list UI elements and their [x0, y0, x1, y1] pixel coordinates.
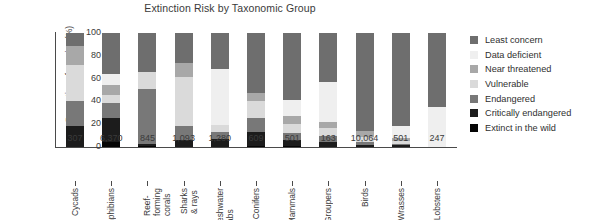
- bar-segment[interactable]: [102, 74, 120, 85]
- bar-segment[interactable]: [102, 33, 120, 74]
- legend-item-label: Vulnerable: [485, 79, 529, 89]
- bar-segment[interactable]: [138, 72, 156, 89]
- legend-item[interactable]: Data deficient: [470, 48, 571, 63]
- chart-legend: Least concernData deficientNear threaten…: [470, 33, 571, 135]
- y-axis-line: [55, 32, 56, 148]
- bar-count-label: 1,093: [164, 133, 204, 143]
- x-axis-tick: [220, 181, 221, 186]
- bar-segment[interactable]: [283, 146, 301, 147]
- legend-item-label: Critically endangered: [485, 108, 571, 118]
- legend-item-label: Data deficient: [485, 50, 541, 60]
- bar-segment[interactable]: [211, 33, 229, 69]
- bar-segment[interactable]: [102, 142, 120, 147]
- stacked-bar[interactable]: [283, 33, 301, 147]
- x-axis-tick: [184, 181, 185, 186]
- bar-segment[interactable]: [247, 118, 265, 132]
- bar-count-label: 10,064: [345, 133, 385, 143]
- stacked-bar[interactable]: [428, 33, 446, 147]
- legend-swatch-icon: [470, 65, 478, 73]
- bar-segment[interactable]: [66, 65, 84, 101]
- bar-segment[interactable]: [283, 100, 301, 116]
- legend-swatch-icon: [470, 95, 478, 103]
- stacked-bar[interactable]: [211, 33, 229, 147]
- bar-segment[interactable]: [175, 63, 193, 78]
- bar-count-label: 163: [308, 133, 348, 143]
- legend-swatch-icon: [470, 51, 478, 59]
- chart-title: Extinction Risk by Taxonomic Group: [0, 2, 460, 14]
- bar-segment[interactable]: [211, 125, 229, 132]
- legend-swatch-icon: [470, 80, 478, 88]
- bar-segment[interactable]: [283, 33, 301, 100]
- x-axis-category-label: Birds: [360, 188, 370, 207]
- bar-segment[interactable]: [247, 101, 265, 118]
- x-axis-tick: [437, 181, 438, 186]
- bar-segment[interactable]: [428, 33, 446, 107]
- bar-segment[interactable]: [102, 95, 120, 103]
- bar-segment[interactable]: [356, 33, 374, 131]
- bar-segment[interactable]: [247, 33, 265, 93]
- legend-item-label: Near threatened: [485, 64, 551, 74]
- chart-container: Extinction Risk by Taxonomic Group Propo…: [0, 0, 597, 220]
- legend-item[interactable]: Near threatened: [470, 62, 571, 77]
- x-axis-tick: [328, 181, 329, 186]
- stacked-bar[interactable]: [319, 33, 337, 147]
- bar-segment[interactable]: [66, 33, 84, 46]
- bar-segment[interactable]: [211, 69, 229, 125]
- bar-count-label: 307: [55, 133, 95, 143]
- stacked-bar[interactable]: [138, 33, 156, 147]
- bar-segment[interactable]: [66, 46, 84, 65]
- legend-swatch-icon: [470, 109, 478, 117]
- bar-count-label: 247: [417, 133, 457, 143]
- legend-item-label: Extinct in the wild: [485, 123, 556, 133]
- legend-item-label: Least concern: [485, 35, 543, 45]
- legend-item[interactable]: Endangered: [470, 91, 571, 106]
- bar-segment[interactable]: [283, 124, 301, 133]
- bar-segment[interactable]: [175, 33, 193, 63]
- stacked-bar[interactable]: [175, 33, 193, 147]
- bar-segment[interactable]: [247, 93, 265, 101]
- bar-segment[interactable]: [319, 82, 337, 122]
- legend-item[interactable]: Critically endangered: [470, 106, 571, 121]
- bar-segment[interactable]: [283, 116, 301, 124]
- stacked-bar[interactable]: [66, 33, 84, 147]
- bar-segment[interactable]: [392, 145, 410, 147]
- legend-item[interactable]: Vulnerable: [470, 77, 571, 92]
- legend-swatch-icon: [470, 124, 478, 132]
- legend-item-label: Endangered: [485, 94, 535, 104]
- x-axis-tick: [147, 181, 148, 186]
- x-axis-line: [55, 147, 457, 148]
- x-axis-category-label: Wrasses: [396, 188, 406, 220]
- x-axis-tick: [111, 181, 112, 186]
- legend-item[interactable]: Least concern: [470, 33, 571, 48]
- bar-count-label: 6,370: [91, 133, 131, 143]
- stacked-bar[interactable]: [102, 33, 120, 147]
- x-axis-category-label: Mammals: [287, 188, 297, 220]
- x-axis-tick: [75, 181, 76, 186]
- bar-segment[interactable]: [175, 77, 193, 126]
- bar-segment[interactable]: [66, 101, 84, 126]
- x-axis-category-label: Groupers: [323, 188, 333, 220]
- bar-segment[interactable]: [319, 142, 337, 147]
- x-axis-category-label: Amphibians: [106, 188, 116, 220]
- x-axis-tick: [365, 181, 366, 186]
- legend-item[interactable]: Extinct in the wild: [470, 121, 571, 136]
- x-axis-category-label: Cycads: [70, 188, 80, 216]
- bar-count-label: 501: [381, 133, 421, 143]
- x-axis-tick: [401, 181, 402, 186]
- bar-segment[interactable]: [138, 33, 156, 72]
- bar-segment[interactable]: [356, 145, 374, 147]
- x-axis-category-label: Conifers: [251, 188, 261, 219]
- legend-swatch-icon: [470, 36, 478, 44]
- bar-segment[interactable]: [138, 146, 156, 147]
- stacked-bar[interactable]: [247, 33, 265, 147]
- bar-segment[interactable]: [319, 33, 337, 82]
- x-axis-category-label: Sharks & rays: [179, 188, 199, 214]
- stacked-bar[interactable]: [392, 33, 410, 147]
- stacked-bar[interactable]: [356, 33, 374, 147]
- bar-segment[interactable]: [102, 85, 120, 94]
- x-axis-category-label: Lobsters: [432, 188, 442, 220]
- bar-segment[interactable]: [247, 146, 265, 147]
- bar-segment[interactable]: [392, 33, 410, 126]
- bar-segment[interactable]: [102, 103, 120, 119]
- x-axis-tick: [256, 181, 257, 186]
